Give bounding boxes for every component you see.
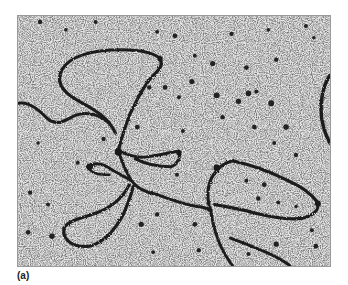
panel-label: (a) (17, 270, 29, 282)
micrograph-image (17, 15, 331, 267)
micrograph-svg (18, 16, 330, 266)
